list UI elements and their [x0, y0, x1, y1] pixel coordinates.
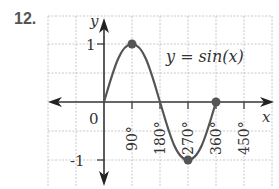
zero-point-360 — [212, 98, 221, 107]
origin-label: 0 — [89, 110, 99, 128]
x-tick-270: 270° — [180, 121, 196, 155]
max-point — [128, 40, 137, 49]
equation-label: y = sin(x) — [165, 47, 244, 66]
x-axis-label: x — [262, 108, 271, 126]
y-tick-1: 1 — [86, 36, 96, 54]
y-tick-neg1: -1 — [70, 152, 85, 170]
min-point — [184, 156, 193, 165]
x-tick-90: 90° — [124, 126, 140, 151]
x-tick-360: 360° — [208, 121, 224, 155]
sine-graph: y x 1 -1 0 90° 180° 270° 360° 450° y = s… — [0, 0, 279, 189]
y-axis-label: y — [89, 12, 99, 30]
x-tick-450: 450° — [236, 121, 252, 155]
x-tick-180: 180° — [152, 121, 168, 155]
